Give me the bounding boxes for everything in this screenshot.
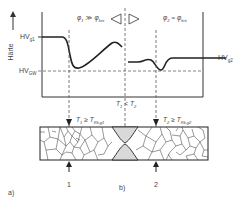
arrow-up-2-icon (153, 161, 159, 172)
marker-1-label: 1 (67, 181, 71, 188)
left-temp-label: T1≥TRk,g1 (76, 116, 104, 125)
marker-2-label: 2 (154, 181, 158, 188)
left-triangle-icon (111, 14, 121, 24)
y-axis-arrow-icon (10, 11, 16, 30)
left-condition-label: φ1≫φkrit (77, 14, 105, 23)
hv-gw-label: HVGW (19, 67, 37, 76)
right-temp-label: T2≥TRk,g2 (163, 116, 192, 125)
hv-g1-label: HVg1 (20, 33, 35, 42)
arrow-down-2-icon (153, 119, 159, 126)
svg-text:HVGW: HVGW (19, 67, 37, 76)
panel-label-b: b) (119, 184, 125, 192)
arrow-down-1-icon (66, 119, 72, 126)
svg-text:HVg1: HVg1 (20, 33, 35, 42)
right-triangle-icon (129, 14, 139, 24)
right-hardness-curve (128, 58, 226, 70)
panel-label-a: a) (8, 189, 14, 197)
y-axis-label: Härte (7, 43, 14, 60)
arrow-up-1-icon (66, 161, 72, 172)
left-hardness-curve (42, 37, 122, 68)
hardness-weld-diagram: Härte HVg1 HVGW HVg2 φ1≫φkrit φ2≈φkrit T… (0, 0, 245, 203)
weld-plate (40, 127, 208, 160)
temp-relation-label: T1<T2 (116, 100, 137, 109)
right-condition-label: φ2≈φkrit (163, 14, 188, 23)
